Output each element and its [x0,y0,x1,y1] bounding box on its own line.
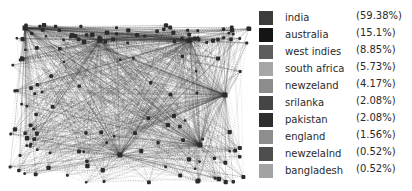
legend-label: newzelalnd [285,147,341,161]
swatch-bangladesh [259,164,273,178]
legend-label: newzeland [285,79,339,93]
swatch-india [259,11,273,25]
legend-percent: (5.73%) [356,60,396,74]
legend-percent: (4.17%) [356,77,396,91]
legend-item-west-indies: west indies (8.85%) [258,45,412,60]
swatch-england [259,130,273,144]
legend-item-south-africa: south africa (5.73%) [258,62,412,77]
legend-item-india: india (59.38%) [258,11,412,26]
legend-label: bangladesh [285,164,343,178]
legend-item-pakistan: pakistan (2.08%) [258,113,412,128]
swatch-west-indies [259,45,273,59]
legend-label: west indies [285,45,341,59]
legend-label: south africa [285,62,344,76]
legend-label: australia [285,28,329,42]
legend-item-australia: australia (15.1%) [258,28,412,43]
legend-label: srilanka [285,96,324,110]
legend-item-bangladesh: bangladesh (0.52%) [258,164,412,179]
swatch-srilanka [259,96,273,110]
legend-percent: (0.52%) [356,145,396,159]
legend-item-srilanka: srilanka (2.08%) [258,96,412,111]
swatch-south-africa [259,62,273,76]
legend-label: india [285,11,309,25]
legend-percent: (0.52%) [356,162,396,176]
network-graph [0,0,255,191]
legend-percent: (59.38%) [356,9,402,23]
legend-percent: (2.08%) [356,111,396,125]
legend-percent: (8.85%) [356,43,396,57]
legend-label: england [285,130,325,144]
swatch-australia [259,28,273,42]
swatch-pakistan [259,113,273,127]
swatch-newzelalnd [259,147,273,161]
legend-percent: (1.56%) [356,128,396,142]
swatch-newzeland [259,79,273,93]
legend-item-newzeland: newzeland (4.17%) [258,79,412,94]
legend-percent: (15.1%) [356,26,396,40]
legend-percent: (2.08%) [356,94,396,108]
legend-item-england: england (1.56%) [258,130,412,145]
legend-item-newzelalnd: newzelalnd (0.52%) [258,147,412,162]
legend-label: pakistan [285,113,328,127]
